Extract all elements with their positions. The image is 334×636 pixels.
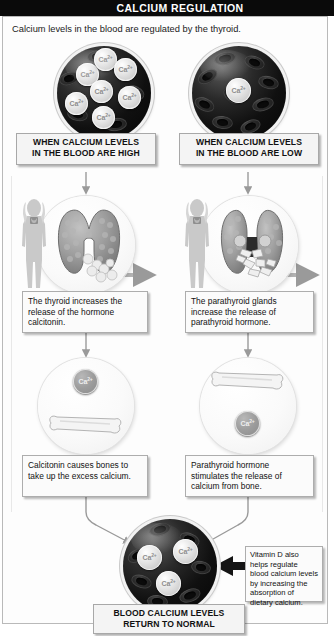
calcium-ion-bone-left: Ca2+: [73, 369, 98, 394]
final-caption: BLOOD CALCIUM LEVELS RETURN TO NORMAL: [93, 604, 245, 634]
blood-circle-low-calcium: Ca2+: [192, 46, 286, 140]
state-caption-low-line1: WHEN CALCIUM LEVELS: [182, 137, 316, 148]
left-gland-text-box: The thyroid increases the release of the…: [22, 291, 148, 333]
red-blood-cell: [190, 559, 212, 575]
column-divider-right: [322, 176, 323, 512]
state-caption-high: WHEN CALCIUM LEVELS IN THE BLOOD ARE HIG…: [16, 133, 156, 165]
state-caption-low: WHEN CALCIUM LEVELS IN THE BLOOD ARE LOW: [179, 133, 319, 165]
state-caption-high-line1: WHEN CALCIUM LEVELS: [19, 137, 153, 148]
ion-text: Ca2+: [179, 547, 193, 555]
left-bone-text: Calcitonin causes bones to take up the e…: [28, 460, 131, 481]
ion-text: Ca2+: [119, 65, 133, 73]
ion-text: Ca2+: [79, 377, 93, 385]
calcium-ion: Ca2+: [118, 86, 141, 109]
ion-text: Ca2+: [97, 113, 111, 121]
calcium-ion: Ca2+: [226, 78, 251, 103]
calcium-ion: Ca2+: [156, 571, 181, 596]
thyroid-gland-illustration: [54, 207, 124, 283]
ion-text: Ca2+: [99, 55, 113, 63]
final-caption-line2: RETURN TO NORMAL: [96, 619, 242, 630]
blood-circle-normal-calcium: Ca2+ Ca2+ Ca2+: [123, 519, 217, 613]
red-blood-cell: [192, 94, 217, 115]
red-blood-cell: [257, 74, 281, 92]
human-silhouette-right: [179, 198, 215, 290]
right-bone-text-box: Parathyroid hormone stimulates the relea…: [185, 455, 314, 497]
figure-subtitle: Calcium levels in the blood are regulate…: [12, 23, 324, 35]
calcium-ion: Ca2+: [65, 92, 88, 115]
final-caption-line1: BLOOD CALCIUM LEVELS: [96, 608, 242, 619]
figure-title: CALCIUM REGULATION: [0, 0, 334, 16]
ion-text: Ca2+: [241, 419, 255, 427]
red-blood-cell: [130, 572, 154, 591]
ion-text: Ca2+: [123, 93, 137, 101]
column-divider-left: [11, 176, 12, 512]
human-silhouette-left: [16, 198, 52, 290]
left-bone-text-box: Calcitonin causes bones to take up the e…: [22, 455, 148, 497]
ion-text: Ca2+: [70, 99, 84, 107]
ion-text: Ca2+: [95, 87, 109, 95]
ion-text: Ca2+: [143, 553, 157, 561]
calcium-ion: Ca2+: [114, 58, 137, 81]
red-blood-cell: [195, 66, 220, 88]
ion-text: Ca2+: [232, 86, 246, 94]
calcium-regulation-figure: CALCIUM REGULATION Calcium levels in the…: [0, 0, 334, 636]
parathyroid-gland-illustration: [216, 207, 288, 283]
red-blood-cell: [148, 521, 172, 539]
red-blood-cell: [213, 50, 237, 67]
calcium-ion: Ca2+: [90, 80, 113, 103]
vitamin-d-note-text: Vitamin D also helps regulate blood calc…: [250, 550, 318, 607]
bone-illustration-right: [210, 368, 286, 394]
vitamin-d-note-box: Vitamin D also helps regulate blood calc…: [245, 546, 323, 602]
left-gland-text: The thyroid increases the release of the…: [28, 296, 122, 327]
calcium-ion-bone-right: Ca2+: [235, 411, 260, 436]
red-blood-cell: [211, 115, 234, 131]
ion-text: Ca2+: [162, 579, 176, 587]
calcium-ion: Ca2+: [173, 539, 198, 564]
calcium-ion: Ca2+: [92, 106, 115, 129]
calcium-ion: Ca2+: [137, 545, 162, 570]
ion-text: Ca2+: [81, 70, 95, 78]
blood-circle-high-calcium: Ca2+ Ca2+ Ca2+ Ca2+ Ca2+ Ca2+ Ca2+: [57, 46, 151, 140]
right-gland-text: The parathyroid glands increase the rele…: [191, 296, 277, 327]
right-bone-text: Parathyroid hormone stimulates the relea…: [191, 460, 282, 491]
state-caption-low-line2: IN THE BLOOD ARE LOW: [182, 148, 316, 159]
right-gland-text-box: The parathyroid glands increase the rele…: [185, 291, 314, 333]
red-blood-cell: [177, 586, 202, 606]
bone-illustration-left: [48, 412, 124, 438]
state-caption-high-line2: IN THE BLOOD ARE HIGH: [19, 148, 153, 159]
red-blood-cell: [242, 53, 266, 72]
red-blood-cell: [251, 95, 276, 114]
